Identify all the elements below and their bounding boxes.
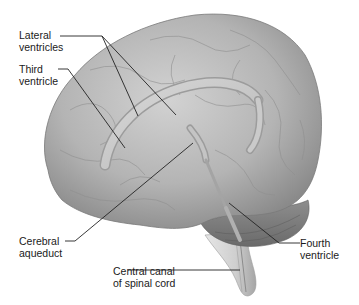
label-fourth-ventricle: Fourth ventricle (300, 237, 339, 261)
label-central-canal: Central canal of spinal cord (113, 265, 175, 289)
label-third-ventricle: Third ventricle (19, 63, 58, 87)
brain-ventricles-diagram: Lateral ventricles Third ventricle Cereb… (0, 0, 359, 305)
label-lateral-ventricles: Lateral ventricles (19, 29, 63, 53)
label-cerebral-aqueduct: Cerebral aqueduct (19, 235, 62, 259)
